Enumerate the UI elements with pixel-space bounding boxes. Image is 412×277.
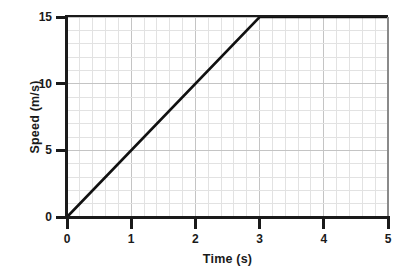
x-tick-label: 4: [309, 233, 339, 245]
x-axis-title: Time (s): [67, 252, 388, 266]
x-tick-label: 1: [116, 233, 146, 245]
x-tick-mark: [258, 218, 261, 229]
data-series-layer: [67, 17, 388, 217]
speed-time-chart: 051015 012345 Time (s) Speed (m/s): [0, 0, 412, 277]
plot-right-border: [387, 17, 389, 217]
x-tick-mark: [322, 218, 325, 229]
y-tick-mark: [56, 149, 65, 152]
x-tick-mark: [66, 218, 69, 229]
y-axis-line: [65, 15, 68, 219]
y-tick-mark: [56, 82, 65, 85]
x-tick-mark: [387, 218, 390, 229]
y-tick-mark: [56, 216, 65, 219]
x-tick-mark: [130, 218, 133, 229]
plot-top-border: [67, 15, 388, 17]
y-tick-mark: [56, 16, 65, 19]
plot-area: [67, 17, 388, 217]
x-tick-mark: [194, 218, 197, 229]
y-tick-label: 0: [26, 211, 52, 223]
x-tick-label: 3: [245, 233, 275, 245]
x-tick-label: 2: [180, 233, 210, 245]
x-axis-line: [65, 216, 390, 219]
y-axis-title: Speed (m/s): [28, 22, 42, 212]
x-tick-label: 0: [52, 233, 82, 245]
x-tick-label: 5: [373, 233, 403, 245]
